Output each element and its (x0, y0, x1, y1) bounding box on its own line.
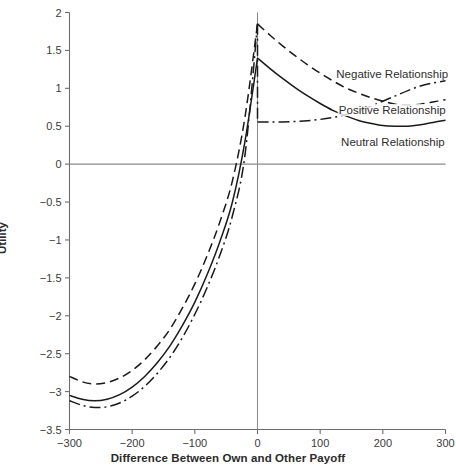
utility-chart-figure: 21.510.50−0.5−1−1.5−2−2.5−3−3.5 −300−200… (0, 0, 456, 473)
y-tick-label: −2 (49, 310, 62, 322)
x-tick-label: 300 (436, 437, 454, 449)
y-tick-label: 1.5 (46, 44, 61, 56)
y-tick-label: −3.5 (40, 424, 62, 436)
x-tick-label: −200 (120, 437, 145, 449)
y-tick-label: −2.5 (40, 348, 62, 360)
series-line-negative-relationship (258, 24, 446, 105)
y-axis-title: Utility (0, 222, 8, 254)
x-tick-label: 0 (254, 437, 260, 449)
y-tick-label: 2 (55, 7, 61, 19)
y-tick-label: 0.5 (46, 120, 61, 132)
y-tick-label: −1 (49, 234, 62, 246)
x-tick-label: 100 (311, 437, 329, 449)
series-label-neutral-relationship: Neutral Relationship (340, 136, 446, 148)
x-tick-label: −300 (57, 437, 82, 449)
y-tick-label: 1 (55, 82, 61, 94)
series-label-negative-relationship: Negative Relationship (335, 68, 449, 80)
y-tick-label: −0.5 (40, 196, 62, 208)
y-tick-label: −1.5 (40, 272, 62, 284)
y-tick-label: −3 (49, 386, 62, 398)
series-line-negative-relationship (70, 24, 258, 384)
y-tick-label: 0 (55, 158, 61, 170)
x-tick-label: −100 (182, 437, 207, 449)
x-axis-title: Difference Between Own and Other Payoff (0, 452, 456, 464)
series-label-positive-relationship: Positive Relationship (338, 104, 447, 116)
x-tick-label: 200 (374, 437, 392, 449)
